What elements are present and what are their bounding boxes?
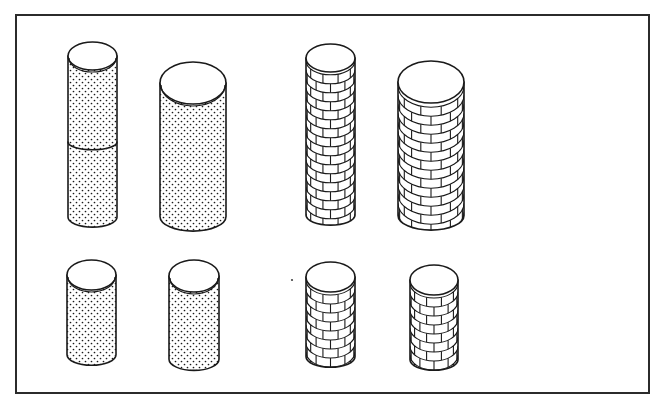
- stray-ink-mark: [291, 279, 293, 281]
- cylinder-top-cap: [306, 44, 355, 72]
- cylinders-illustration: [0, 0, 665, 409]
- cylinder-dot-small-2: [169, 260, 219, 370]
- cylinder-brick-tall: [306, 44, 355, 255]
- cylinder-dot-tall: [68, 42, 117, 227]
- stipple-texture: [68, 56, 117, 227]
- cylinder-layer: [67, 42, 464, 406]
- cylinder-top-cap: [68, 42, 117, 70]
- illustration-canvas: Cylinders with stippled and brick textur…: [0, 0, 665, 409]
- cylinder-top-cap: [169, 260, 219, 292]
- brick-texture: [306, 280, 355, 403]
- cylinder-top-cap: [160, 62, 226, 104]
- brick-texture: [410, 283, 458, 406]
- cylinder-top-cap: [410, 265, 458, 295]
- cylinder-dot-small-1: [67, 260, 116, 365]
- cylinder-top-cap: [398, 61, 464, 103]
- cylinder-dot-large: [160, 62, 226, 231]
- cylinder-top-cap: [67, 260, 116, 290]
- stipple-texture: [160, 83, 226, 231]
- cylinder-brick-small-1: [306, 262, 355, 403]
- brick-texture: [398, 86, 464, 269]
- cylinder-brick-large: [398, 61, 464, 269]
- cylinder-brick-small-2: [410, 265, 458, 406]
- cylinder-top-cap: [306, 262, 355, 292]
